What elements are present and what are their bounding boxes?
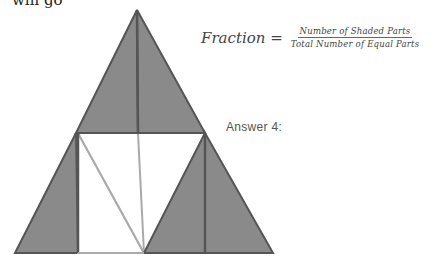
answer-label: Answer 4: <box>226 120 282 134</box>
formula-numerator: Number of Shaded Parts <box>298 26 413 38</box>
page: will go Fraction = Number of Shaded Part… <box>0 0 447 269</box>
formula-denominator: Total Number of Equal Parts <box>289 38 421 49</box>
shaded-part-top-right <box>137 10 205 133</box>
shaded-part-bottom-right-left <box>144 133 205 253</box>
shaded-part-bottom-left-outer <box>15 133 78 253</box>
shaded-part-bottom-right-right <box>205 133 273 253</box>
shaded-part-top-left <box>76 10 138 133</box>
formula-lhs: Fraction = <box>201 29 283 47</box>
formula-fraction: Number of Shaded Parts Total Number of E… <box>289 26 421 49</box>
fraction-formula: Fraction = Number of Shaded Parts Total … <box>201 26 421 49</box>
